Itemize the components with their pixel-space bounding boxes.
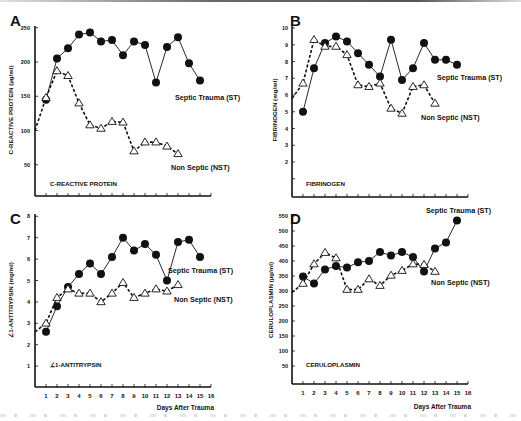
st-data-point-filled-circle-icon bbox=[310, 280, 318, 288]
x-tick-label: 3 bbox=[66, 393, 70, 399]
nst-data-point-open-triangle-icon bbox=[42, 319, 50, 326]
nst-data-point-open-triangle-icon bbox=[75, 99, 83, 106]
st-data-point-filled-circle-icon bbox=[119, 51, 127, 59]
nst-data-point-open-triangle-icon bbox=[163, 142, 171, 149]
y-tick-label: 550 bbox=[279, 213, 288, 219]
st-data-point-filled-circle-icon bbox=[310, 64, 318, 72]
st-data-point-filled-circle-icon bbox=[108, 36, 116, 44]
y-tick-label: 8 bbox=[27, 213, 30, 219]
st-data-point-filled-circle-icon bbox=[185, 236, 193, 244]
st-data-point-filled-circle-icon bbox=[431, 244, 439, 252]
y-tick-label: 300 bbox=[279, 288, 288, 294]
x-tick-label: 10 bbox=[142, 393, 149, 399]
st-data-point-filled-circle-icon bbox=[442, 238, 450, 246]
figure-canvas: A50100150200250C-REACTIVE PROTEIN (µg/ml… bbox=[0, 0, 521, 421]
y-tick-label: 150 bbox=[21, 93, 30, 99]
st-data-point-filled-circle-icon bbox=[365, 257, 373, 265]
nst-data-point-open-triangle-icon bbox=[119, 278, 127, 285]
x-tick-label: 4 bbox=[334, 390, 338, 396]
x-tick-label: 2 bbox=[55, 393, 59, 399]
st-data-point-filled-circle-icon bbox=[141, 240, 149, 248]
nst-data-point-open-triangle-icon bbox=[376, 79, 384, 86]
nst-data-point-open-triangle-icon bbox=[141, 138, 149, 145]
nst-data-point-open-triangle-icon bbox=[354, 81, 362, 88]
nst-data-point-open-triangle-icon bbox=[86, 121, 94, 128]
x-tick-label: 9 bbox=[132, 393, 136, 399]
st-data-point-filled-circle-icon bbox=[321, 265, 329, 273]
x-tick-label: 11 bbox=[153, 393, 160, 399]
st-data-point-filled-circle-icon bbox=[196, 76, 204, 84]
y-tick-label: 50 bbox=[24, 162, 30, 168]
st-data-point-filled-circle-icon bbox=[431, 56, 439, 64]
nst-series-label: Non Septic (NST) bbox=[421, 113, 480, 122]
y-tick-label: 250 bbox=[279, 303, 288, 309]
st-data-point-filled-circle-icon bbox=[130, 247, 138, 255]
panel-d-ceruloplasmin-chart: D123456789101112131415165010015020025030… bbox=[267, 206, 492, 411]
x-tick-label: 12 bbox=[421, 390, 428, 396]
y-tick-label: 1 bbox=[27, 363, 30, 369]
st-data-point-filled-circle-icon bbox=[453, 61, 461, 69]
st-data-point-filled-circle-icon bbox=[442, 56, 450, 64]
st-data-point-filled-circle-icon bbox=[163, 43, 171, 51]
st-data-point-filled-circle-icon bbox=[354, 49, 362, 57]
nst-data-point-open-triangle-icon bbox=[174, 150, 182, 157]
st-data-point-filled-circle-icon bbox=[409, 64, 417, 72]
nst-data-point-open-triangle-icon bbox=[332, 42, 340, 49]
y-tick-label: 5 bbox=[285, 109, 288, 115]
x-tick-label: 7 bbox=[367, 390, 371, 396]
st-data-point-filled-circle-icon bbox=[299, 108, 307, 116]
chart-inner-title: C-REACTIVE PROTEIN bbox=[50, 180, 118, 187]
x-tick-label: 14 bbox=[186, 393, 193, 399]
y-tick-label: 3 bbox=[27, 320, 30, 326]
nst-data-point-open-triangle-icon bbox=[431, 99, 439, 106]
st-series-label: Septic Trauma (ST) bbox=[426, 206, 492, 215]
x-tick-label: 8 bbox=[378, 390, 382, 396]
x-tick-label: 6 bbox=[356, 390, 360, 396]
chart-inner-title: ∠1-ANTITRYPSIN bbox=[50, 361, 102, 368]
x-tick-label: 14 bbox=[443, 390, 450, 396]
panel-b-fibrinogen-chart: B2345678910FIBRINOGEN (mg/ml)FIBRINOGENS… bbox=[271, 12, 503, 197]
st-data-point-filled-circle-icon bbox=[152, 251, 160, 259]
x-tick-label: 12 bbox=[164, 393, 171, 399]
st-data-point-filled-circle-icon bbox=[387, 36, 395, 44]
x-tick-label: 2 bbox=[312, 390, 316, 396]
x-tick-label: 6 bbox=[99, 393, 103, 399]
st-data-point-filled-circle-icon bbox=[75, 31, 83, 39]
y-tick-label: 100 bbox=[279, 348, 288, 354]
nst-data-point-open-triangle-icon bbox=[420, 81, 428, 88]
st-data-point-filled-circle-icon bbox=[119, 234, 127, 242]
x-tick-label: 13 bbox=[175, 393, 182, 399]
x-tick-label: 16 bbox=[465, 390, 472, 396]
st-data-point-filled-circle-icon bbox=[196, 253, 204, 261]
x-tick-label: 13 bbox=[432, 390, 439, 396]
y-tick-label: 350 bbox=[279, 273, 288, 279]
nst-data-point-open-triangle-icon bbox=[152, 285, 160, 292]
x-tick-label: 1 bbox=[44, 393, 48, 399]
y-axis-label: ∠1-ANTITRYPSIN (mg/ml) bbox=[7, 262, 14, 338]
x-tick-label: 7 bbox=[110, 393, 114, 399]
y-axis-label: FIBRINOGEN (mg/ml) bbox=[271, 79, 278, 142]
st-data-point-filled-circle-icon bbox=[398, 76, 406, 84]
caption-fragment bbox=[0, 414, 521, 417]
y-tick-label: 4 bbox=[285, 126, 289, 132]
st-data-point-filled-circle-icon bbox=[420, 268, 428, 276]
nst-data-point-open-triangle-icon bbox=[299, 279, 307, 286]
nst-data-point-open-triangle-icon bbox=[431, 267, 439, 274]
y-tick-label: 6 bbox=[285, 92, 288, 98]
y-tick-label: 2 bbox=[27, 342, 30, 348]
nst-series-label: Non Septic (NST) bbox=[174, 295, 233, 304]
x-tick-label: 11 bbox=[410, 390, 417, 396]
y-tick-label: 2 bbox=[285, 159, 288, 165]
st-data-point-filled-circle-icon bbox=[174, 238, 182, 246]
y-tick-label: 3 bbox=[285, 142, 288, 148]
st-data-point-filled-circle-icon bbox=[376, 248, 384, 256]
st-data-point-filled-circle-icon bbox=[332, 262, 340, 270]
x-tick-label: 1 bbox=[301, 390, 305, 396]
nst-data-point-open-triangle-icon bbox=[398, 266, 406, 273]
nst-data-point-open-triangle-icon bbox=[97, 124, 105, 131]
y-axis-label: CERULOPLASMIN (µg/ml) bbox=[267, 262, 274, 338]
st-data-point-filled-circle-icon bbox=[343, 37, 351, 45]
y-tick-label: 400 bbox=[279, 258, 288, 264]
x-tick-label: 15 bbox=[197, 393, 204, 399]
nst-series-line bbox=[292, 40, 435, 114]
